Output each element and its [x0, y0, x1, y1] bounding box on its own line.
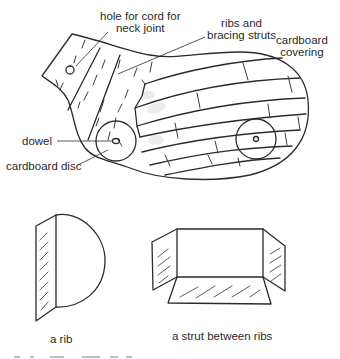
- caption-rib: a rib: [50, 333, 72, 345]
- leader-hole: [76, 32, 108, 66]
- rib-illustration: [36, 214, 105, 321]
- label-ribs-and-struts: ribs and bracing struts: [207, 17, 276, 41]
- label-cardboard-covering: cardboard covering: [276, 34, 328, 58]
- main-body-illustration: [42, 32, 308, 179]
- leader-disc: [78, 150, 108, 165]
- label-hole-for-cord: hole for cord for neck joint: [100, 10, 181, 34]
- strut-illustration: [152, 229, 285, 304]
- label-cardboard-disc: cardboard disc: [6, 160, 81, 172]
- label-dowel: dowel: [22, 135, 52, 147]
- diagram-figure: hole for cord for neck joint ribs and br…: [0, 0, 340, 359]
- cropped-caption-fragment: [0, 354, 200, 359]
- caption-strut: a strut between ribs: [172, 330, 272, 342]
